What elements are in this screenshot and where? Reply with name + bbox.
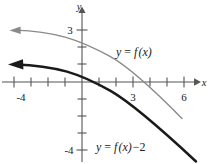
coordinate-plane: -4 3 6 3 -4 x y y=f(x) y=f(x)−2 — [0, 0, 212, 164]
x-axis-arrowhead — [194, 78, 201, 86]
curve-f-label-eq: = — [124, 45, 131, 59]
x-tick-label-3: 3 — [130, 91, 136, 103]
y-tick-label--4: -4 — [64, 144, 74, 156]
y-tick-label-3: 3 — [67, 24, 73, 36]
x-tick-label--4: -4 — [16, 91, 26, 103]
curve-f2-label-shift: −2 — [133, 140, 146, 154]
curve-f2-label-arg: (x) — [118, 140, 131, 154]
curve-f-label: y=f(x) — [115, 45, 152, 59]
curve-f-minus-2-arrowhead — [8, 59, 23, 69]
curve-f-label-arg: (x) — [138, 45, 151, 59]
x-tick-label-6: 6 — [181, 91, 187, 103]
graph-figure: -4 3 6 3 -4 x y y=f(x) y=f(x)−2 — [0, 0, 212, 164]
curve-f2-label-lhs: y — [95, 140, 102, 154]
curve-f-label-lhs: y — [115, 45, 122, 59]
y-axis-name: y — [76, 1, 82, 12]
curve-f — [10, 27, 183, 119]
curve-f-minus-2 — [8, 59, 196, 161]
x-axis-name: x — [201, 77, 207, 88]
curve-f-minus-2-label: y=f(x)−2 — [95, 140, 146, 154]
curve-f2-label-eq: = — [104, 140, 111, 154]
curve-f-arrowhead — [10, 27, 21, 34]
curve-f-path — [15, 30, 182, 118]
